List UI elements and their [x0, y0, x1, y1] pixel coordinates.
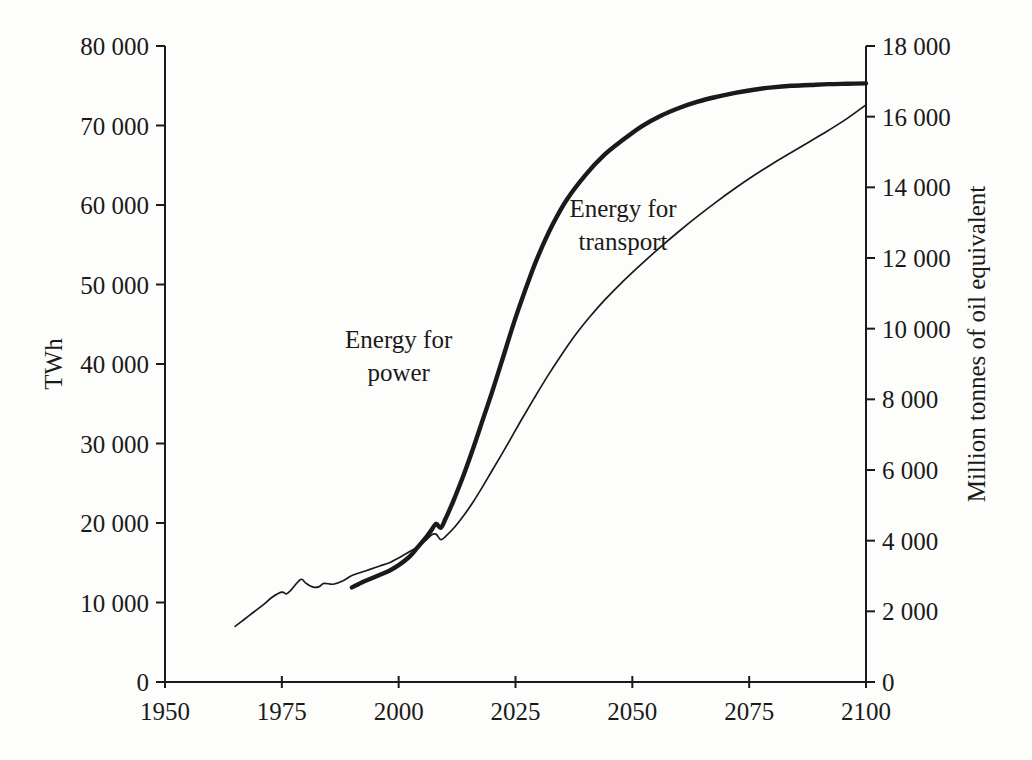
right-tick-label: 0 — [882, 669, 895, 696]
right-tick-label: 4 000 — [882, 528, 938, 555]
right-tick-label: 14 000 — [882, 174, 951, 201]
series-label-energy-for-power: Energy for — [345, 326, 453, 353]
x-tick-label: 1950 — [140, 698, 190, 725]
right-tick-label: 6 000 — [882, 457, 938, 484]
series-label-energy-for-power-line2: power — [367, 359, 430, 386]
line-chart-svg: 010 00020 00030 00040 00050 00060 00070 … — [0, 0, 1032, 760]
x-tick-label: 2025 — [491, 698, 541, 725]
axes-group — [165, 46, 866, 682]
right-tick-label: 16 000 — [882, 104, 951, 131]
x-tick-label: 2000 — [374, 698, 424, 725]
right-tick-label: 12 000 — [882, 245, 951, 272]
series-line-energy-for-transport — [235, 105, 866, 627]
left-tick-label: 40 000 — [80, 351, 149, 378]
right-axis-ticks: 02 0004 0006 0008 00010 00012 00014 0001… — [866, 33, 951, 696]
left-tick-label: 60 000 — [80, 192, 149, 219]
left-tick-label: 20 000 — [80, 510, 149, 537]
chart-figure: 010 00020 00030 00040 00050 00060 00070 … — [0, 0, 1032, 760]
x-tick-label: 2100 — [841, 698, 891, 725]
x-tick-label: 1975 — [257, 698, 307, 725]
right-axis-title: Million tonnes of oil equivalent — [963, 186, 990, 503]
left-tick-label: 50 000 — [80, 272, 149, 299]
right-tick-label: 8 000 — [882, 386, 938, 413]
right-tick-label: 18 000 — [882, 33, 951, 60]
series-annotations: Energy forpowerEnergy fortransport — [345, 195, 677, 386]
series-group — [235, 83, 866, 626]
x-tick-label: 2075 — [724, 698, 774, 725]
left-tick-label: 0 — [137, 669, 150, 696]
x-tick-label: 2050 — [607, 698, 657, 725]
left-tick-label: 80 000 — [80, 33, 149, 60]
left-tick-label: 10 000 — [80, 590, 149, 617]
right-tick-label: 10 000 — [882, 316, 951, 343]
left-tick-label: 70 000 — [80, 113, 149, 140]
left-axis-ticks: 010 00020 00030 00040 00050 00060 00070 … — [80, 33, 165, 696]
right-tick-label: 2 000 — [882, 598, 938, 625]
left-axis-title: TWh — [40, 338, 67, 390]
left-tick-label: 30 000 — [80, 431, 149, 458]
series-label-energy-for-transport: Energy for — [569, 195, 677, 222]
series-label-energy-for-transport-line2: transport — [579, 228, 668, 255]
x-axis-ticks: 1950197520002025205020752100 — [140, 676, 891, 725]
